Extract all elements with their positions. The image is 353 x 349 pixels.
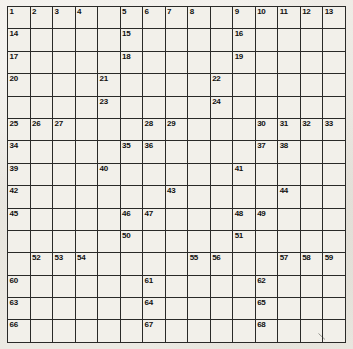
crossword-grid-table[interactable]: 1234567891011121314151617181920212223242…: [7, 6, 346, 343]
crossword-cell[interactable]: 50: [120, 230, 143, 252]
crossword-cell[interactable]: 43: [165, 186, 188, 208]
crossword-cell[interactable]: 56: [210, 253, 233, 275]
crossword-cell[interactable]: [75, 51, 98, 73]
crossword-cell[interactable]: 14: [8, 29, 31, 51]
crossword-cell[interactable]: [120, 96, 143, 118]
crossword-cell[interactable]: 39: [8, 163, 31, 185]
crossword-cell[interactable]: [53, 51, 76, 73]
crossword-cell[interactable]: 65: [255, 298, 278, 320]
crossword-cell[interactable]: [98, 186, 121, 208]
crossword-cell[interactable]: [255, 29, 278, 51]
crossword-cell[interactable]: [98, 275, 121, 297]
crossword-cell[interactable]: [233, 96, 256, 118]
crossword-cell[interactable]: 23: [98, 96, 121, 118]
crossword-cell[interactable]: 7: [165, 7, 188, 29]
crossword-cell[interactable]: 47: [143, 208, 166, 230]
crossword-cell[interactable]: 41: [233, 163, 256, 185]
crossword-cell[interactable]: 49: [255, 208, 278, 230]
crossword-cell[interactable]: [300, 163, 323, 185]
crossword-cell[interactable]: 2: [30, 7, 53, 29]
crossword-cell[interactable]: [255, 51, 278, 73]
crossword-cell[interactable]: 33: [323, 118, 346, 140]
crossword-cell[interactable]: 54: [75, 253, 98, 275]
crossword-cell[interactable]: 37: [255, 141, 278, 163]
crossword-cell[interactable]: [53, 208, 76, 230]
crossword-cell[interactable]: [300, 275, 323, 297]
crossword-cell[interactable]: 61: [143, 275, 166, 297]
crossword-cell[interactable]: [233, 74, 256, 96]
crossword-cell[interactable]: 25: [8, 118, 31, 140]
crossword-cell[interactable]: 1: [8, 7, 31, 29]
crossword-cell[interactable]: [165, 208, 188, 230]
crossword-cell[interactable]: [30, 208, 53, 230]
crossword-cell[interactable]: [188, 118, 211, 140]
crossword-cell[interactable]: [210, 163, 233, 185]
crossword-cell[interactable]: [188, 275, 211, 297]
crossword-cell[interactable]: [210, 141, 233, 163]
crossword-cell[interactable]: 13: [323, 7, 346, 29]
crossword-cell[interactable]: 28: [143, 118, 166, 140]
crossword-cell[interactable]: [300, 298, 323, 320]
crossword-cell[interactable]: [188, 141, 211, 163]
crossword-cell[interactable]: [300, 141, 323, 163]
crossword-cell[interactable]: 5: [120, 7, 143, 29]
crossword-cell[interactable]: 45: [8, 208, 31, 230]
crossword-cell[interactable]: 27: [53, 118, 76, 140]
crossword-cell[interactable]: 57: [278, 253, 301, 275]
crossword-cell[interactable]: [53, 74, 76, 96]
crossword-cell[interactable]: [210, 118, 233, 140]
crossword-cell[interactable]: [323, 29, 346, 51]
crossword-cell[interactable]: [143, 29, 166, 51]
crossword-cell[interactable]: [323, 163, 346, 185]
crossword-cell[interactable]: 4: [75, 7, 98, 29]
crossword-cell[interactable]: [255, 74, 278, 96]
crossword-cell[interactable]: [120, 163, 143, 185]
crossword-cell[interactable]: 9: [233, 7, 256, 29]
crossword-cell[interactable]: 62: [255, 275, 278, 297]
crossword-cell[interactable]: [233, 186, 256, 208]
crossword-cell[interactable]: 38: [278, 141, 301, 163]
crossword-cell[interactable]: 21: [98, 74, 121, 96]
crossword-cell[interactable]: [188, 74, 211, 96]
crossword-cell[interactable]: [255, 253, 278, 275]
crossword-cell[interactable]: [30, 141, 53, 163]
crossword-cell[interactable]: 22: [210, 74, 233, 96]
crossword-cell[interactable]: 32: [300, 118, 323, 140]
crossword-cell[interactable]: [165, 275, 188, 297]
crossword-cell[interactable]: 40: [98, 163, 121, 185]
crossword-cell[interactable]: [165, 29, 188, 51]
crossword-cell[interactable]: 17: [8, 51, 31, 73]
crossword-cell[interactable]: [300, 29, 323, 51]
crossword-cell[interactable]: [30, 29, 53, 51]
crossword-cell[interactable]: [98, 298, 121, 320]
crossword-cell[interactable]: 34: [8, 141, 31, 163]
crossword-cell[interactable]: [75, 320, 98, 342]
crossword-cell[interactable]: [278, 320, 301, 342]
crossword-cell[interactable]: 16: [233, 29, 256, 51]
crossword-cell[interactable]: [53, 141, 76, 163]
crossword-cell[interactable]: [188, 298, 211, 320]
crossword-cell[interactable]: [30, 275, 53, 297]
crossword-cell[interactable]: [210, 186, 233, 208]
crossword-cell[interactable]: [53, 320, 76, 342]
crossword-cell[interactable]: 6: [143, 7, 166, 29]
crossword-cell[interactable]: 30: [255, 118, 278, 140]
crossword-cell[interactable]: 66: [8, 320, 31, 342]
crossword-cell[interactable]: [53, 298, 76, 320]
crossword-cell[interactable]: 64: [143, 298, 166, 320]
crossword-cell[interactable]: [75, 118, 98, 140]
crossword-cell[interactable]: 52: [30, 253, 53, 275]
crossword-cell[interactable]: [233, 253, 256, 275]
crossword-cell[interactable]: 48: [233, 208, 256, 230]
crossword-cell[interactable]: [75, 163, 98, 185]
crossword-cell[interactable]: [188, 320, 211, 342]
crossword-cell[interactable]: [165, 298, 188, 320]
crossword-cell[interactable]: [323, 141, 346, 163]
crossword-cell[interactable]: 58: [300, 253, 323, 275]
crossword-cell[interactable]: [165, 51, 188, 73]
crossword-cell[interactable]: [165, 74, 188, 96]
crossword-cell[interactable]: 29: [165, 118, 188, 140]
crossword-cell[interactable]: [75, 186, 98, 208]
crossword-cell[interactable]: 24: [210, 96, 233, 118]
crossword-cell[interactable]: [300, 320, 323, 342]
